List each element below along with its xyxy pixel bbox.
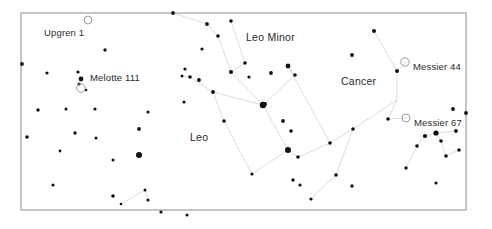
star-marker [464, 111, 468, 115]
star-marker [111, 194, 115, 198]
star-marker [45, 71, 48, 74]
star-marker [25, 135, 29, 139]
constellation-label: Cancer [341, 75, 377, 87]
star-marker [298, 183, 301, 186]
star-marker [36, 108, 39, 111]
star-marker [171, 11, 175, 15]
constellation-line [173, 13, 207, 24]
star-marker [229, 19, 233, 23]
cluster-circle-icon [77, 84, 85, 92]
cluster-label: Melotte 111 [90, 72, 140, 83]
star-marker [263, 102, 267, 106]
star-marker [144, 189, 147, 192]
constellation-line [213, 92, 288, 174]
star-marker [289, 129, 293, 133]
constellation-line [388, 118, 406, 119]
constellation-line [288, 66, 330, 157]
cluster-circle-icon [401, 58, 409, 66]
star-marker [222, 119, 226, 123]
star-marker [136, 152, 142, 158]
star-marker [186, 214, 189, 217]
star-marker [73, 131, 76, 134]
star-marker [454, 129, 458, 133]
constellation-line [263, 66, 295, 105]
star-chart-canvas: Upgren 1Melotte 111Messier 44Messier 67 … [0, 0, 492, 229]
star-marker [350, 53, 354, 57]
constellation-labels-group: Leo MinorCancerLeo [190, 31, 377, 143]
constellation-label: Leo Minor [246, 31, 295, 43]
star-marker [183, 67, 186, 70]
star-marker [309, 197, 312, 200]
star-marker [112, 159, 115, 162]
constellation-line [182, 76, 263, 105]
star-marker [334, 173, 338, 177]
star-marker [103, 48, 106, 51]
cluster-label: Messier 44 [413, 61, 461, 72]
star-marker [395, 69, 399, 73]
star-marker [93, 107, 96, 110]
star-marker [328, 141, 332, 145]
constellation-line [207, 21, 245, 72]
star-marker [211, 90, 215, 94]
star-marker [200, 47, 203, 50]
star-marker [423, 134, 427, 138]
star-marker [269, 71, 273, 75]
star-marker [404, 166, 407, 169]
star-marker [182, 100, 185, 103]
star-marker [120, 203, 123, 206]
star-marker [216, 34, 220, 38]
constellation-line [330, 100, 397, 143]
star-marker [285, 147, 291, 153]
star-marker [444, 154, 448, 158]
constellation-label: Leo [190, 131, 208, 143]
star-marker [146, 198, 149, 201]
star-marker [247, 75, 250, 78]
star-marker [197, 78, 201, 82]
star-marker [281, 119, 285, 123]
cluster-circle-icon [84, 16, 92, 24]
star-marker [415, 144, 419, 148]
constellation-line [311, 129, 353, 199]
constellation-line [121, 190, 148, 204]
star-marker [457, 148, 461, 152]
constellation-line [406, 131, 456, 168]
star-marker [250, 172, 253, 175]
cluster-label: Upgren 1 [44, 27, 84, 38]
star-marker [20, 62, 24, 66]
constellation-line [374, 31, 397, 119]
star-marker [451, 107, 455, 111]
star-marker [372, 29, 376, 33]
star-marker [291, 178, 294, 181]
chart-frame [21, 13, 466, 210]
star-marker [205, 22, 209, 26]
chart-frame-group [21, 13, 466, 210]
constellation-line [436, 133, 459, 156]
cluster-label: Messier 67 [414, 117, 462, 128]
star-marker [95, 137, 98, 140]
star-marker [386, 117, 390, 121]
cluster-markers-group [77, 16, 410, 122]
star-marker [65, 108, 68, 111]
star-marker [286, 64, 291, 69]
star-marker [433, 130, 438, 135]
star-marker [159, 210, 162, 213]
star-marker [296, 155, 300, 159]
star-marker [351, 127, 355, 131]
star-marker [76, 70, 79, 73]
star-marker [434, 181, 437, 184]
star-marker [137, 127, 141, 131]
star-marker [243, 61, 247, 65]
star-chart: Upgren 1Melotte 111Messier 44Messier 67 … [0, 0, 492, 229]
star-marker [188, 75, 192, 79]
constellation-line [231, 72, 288, 150]
star-marker [146, 110, 149, 113]
star-marker [79, 77, 84, 82]
star-marker [439, 139, 443, 143]
stars-group [20, 11, 468, 216]
star-marker [350, 184, 353, 187]
star-marker [293, 73, 297, 77]
star-marker [51, 183, 54, 186]
star-marker [181, 75, 184, 78]
star-marker [59, 150, 62, 153]
star-marker [229, 70, 233, 74]
